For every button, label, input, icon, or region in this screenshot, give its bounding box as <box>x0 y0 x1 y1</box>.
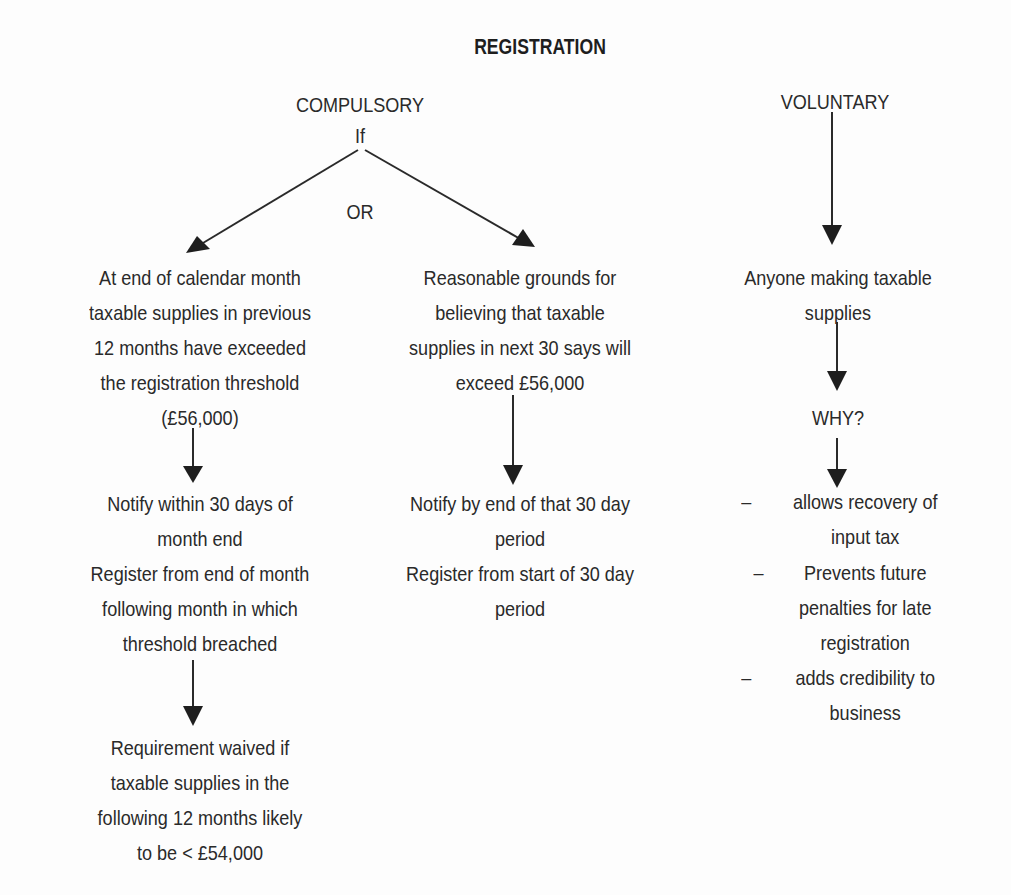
text-line: – adds credibility to <box>736 660 960 695</box>
text-line: supplies in next 30 says will <box>382 330 657 365</box>
text-line: Notify within 30 days of <box>62 486 337 521</box>
text-line: exceed £56,000 <box>382 365 657 400</box>
text-line: At end of calendar month <box>62 260 337 295</box>
reason-text: adds credibility to <box>761 666 935 689</box>
left-branch-exception: Requirement waived if taxable supplies i… <box>62 730 337 870</box>
text-line: input tax <box>736 519 960 554</box>
text-line: 12 months have exceeded <box>62 330 337 365</box>
text-line: believing that taxable <box>382 295 657 330</box>
arrowhead-right-branch-icon <box>512 229 535 247</box>
left-branch-action: Notify within 30 days of month end Regis… <box>62 486 337 661</box>
text-line: supplies <box>719 295 956 330</box>
text-line: Register from end of month <box>62 556 337 591</box>
arrowhead-left-exception-icon <box>183 706 203 726</box>
text-line: month end <box>62 521 337 556</box>
text-line: following month in which <box>62 591 337 626</box>
text-line: Reasonable grounds for <box>382 260 657 295</box>
bullet-dash-icon: – <box>753 555 763 590</box>
text-line: penalties for late <box>736 590 960 625</box>
text-line: taxable supplies in previous <box>62 295 337 330</box>
why-label: WHY? <box>788 400 888 435</box>
text-line: Anyone making taxable <box>719 260 956 295</box>
arrowhead-who-icon <box>822 225 842 245</box>
compulsory-heading-label: COMPULSORY <box>257 87 463 122</box>
voluntary-why-label: WHY? <box>788 400 888 435</box>
voluntary-heading-label: VOLUNTARY <box>753 84 916 119</box>
compulsory-heading: COMPULSORY <box>257 87 463 122</box>
compulsory-condition-if: If <box>326 118 395 153</box>
text-line: threshold breached <box>62 626 337 661</box>
arrowhead-right-action-icon <box>503 465 523 485</box>
text-line: period <box>382 521 657 556</box>
right-branch-action: Notify by end of that 30 day period Regi… <box>382 486 657 626</box>
arrowhead-left-action-icon <box>183 466 203 483</box>
text-line: to be < £54,000 <box>62 835 337 870</box>
text-line: Requirement waived if <box>62 730 337 765</box>
text-line: – allows recovery of <box>736 484 960 519</box>
text-line: period <box>382 591 657 626</box>
voluntary-heading: VOLUNTARY <box>753 84 916 119</box>
text-line: Notify by end of that 30 day <box>382 486 657 521</box>
arrowhead-left-branch-icon <box>186 236 210 253</box>
text-line: the registration threshold <box>62 365 337 400</box>
text-line: registration <box>736 625 960 660</box>
bullet-dash-icon: – <box>741 660 751 695</box>
text-line: (£56,000) <box>62 400 337 435</box>
right-branch-condition: Reasonable grounds for believing that ta… <box>382 260 657 400</box>
reason-item: – allows recovery of input tax <box>736 484 960 554</box>
if-label: If <box>326 118 395 153</box>
registration-diagram: REGISTRATION COMPULSORY If OR At end of … <box>0 0 1011 895</box>
text-line: Register from start of 30 day <box>382 556 657 591</box>
text-line: business <box>736 695 960 730</box>
reason-text: Prevents future <box>770 561 927 584</box>
arrowhead-why-icon <box>827 371 847 391</box>
text-line: – Prevents future <box>736 555 960 590</box>
or-connector-label: OR <box>326 194 395 229</box>
reason-item: – adds credibility to business <box>736 660 960 730</box>
text-line: following 12 months likely <box>62 800 337 835</box>
bullet-dash-icon: – <box>741 484 751 519</box>
diagram-title: REGISTRATION <box>396 32 684 62</box>
reason-item: – Prevents future penalties for late reg… <box>736 555 960 660</box>
reason-text: allows recovery of <box>759 490 938 513</box>
text-line: taxable supplies in the <box>62 765 337 800</box>
voluntary-who: Anyone making taxable supplies <box>719 260 956 330</box>
left-branch-condition: At end of calendar month taxable supplie… <box>62 260 337 435</box>
